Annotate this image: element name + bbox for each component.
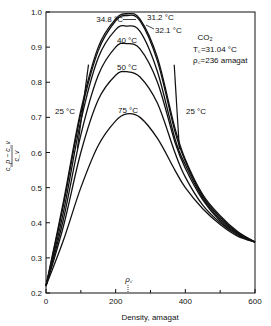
curve-50-c [46, 71, 255, 286]
y-tick-label: 0.4 [31, 219, 43, 228]
y-label-denominator: c_v [13, 150, 20, 161]
annotation-rhoc: ρ꜀=236 amagat [193, 56, 248, 65]
annotation-co2: CO₂ [197, 33, 212, 42]
y-tick-label: 1.0 [31, 8, 43, 17]
rhoc-marker-label: ρ꜀ [124, 275, 133, 284]
leader-32-1 [146, 25, 154, 29]
data-curves [46, 13, 255, 285]
y-tick-label: 0.2 [31, 289, 43, 298]
x-tick-label: 200 [109, 297, 123, 306]
y-tick-label: 0.3 [31, 254, 43, 263]
y-tick-label: 0.8 [31, 78, 43, 87]
label-75: 75 °C [118, 106, 138, 115]
label-50: 50 °C [117, 63, 137, 72]
y-tick-label: 0.5 [31, 184, 43, 193]
y-tick-label: 0.9 [31, 43, 43, 52]
y-label-numerator: c_p − c_v [4, 140, 12, 171]
curve-25c-segment [77, 65, 88, 149]
label-32-1: 32.1 °C [155, 26, 182, 35]
y-axis-label: c_p − c_v c_v [4, 140, 20, 171]
annotation-tc: T꜀=31.04 °C [193, 45, 237, 54]
x-tick-label: 600 [248, 297, 262, 306]
y-tick-label: 0.6 [31, 149, 43, 158]
label-25-left: 25 °C [55, 107, 75, 116]
x-tick-label: 0 [44, 297, 49, 306]
label-31-2: 31.2 °C [147, 13, 174, 22]
label-40: 40 °C [117, 36, 137, 45]
label-34-8: 34.8 °C [96, 15, 123, 24]
y-tick-label: 0.7 [31, 113, 43, 122]
x-axis-label: Density, amagat [121, 313, 179, 322]
label-25-right: 25 °C [186, 107, 206, 116]
x-tick-label: 400 [179, 297, 193, 306]
chart: 02004006000.20.30.40.50.60.70.80.91.0 34… [0, 0, 271, 326]
